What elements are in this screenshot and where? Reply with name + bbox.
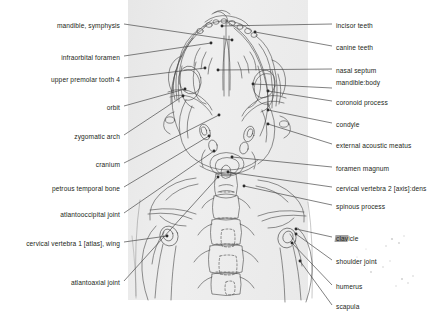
leader-line-petrous-temporal-bone (124, 136, 209, 187)
label-cervical-vertebra-1-atlas-line-0: cervical vertebra 1 [atlas], wing (4, 240, 120, 248)
label-mandible-body: mandible:body (336, 79, 380, 87)
label-zygomatic-arch-line-0: zygomatic arch (4, 133, 120, 141)
leader-line-upper-premolar-tooth-4 (124, 68, 205, 78)
label-petrous-temporal-bone-line-0: petrous temporal bone (4, 185, 120, 193)
leader-dot-shoulder-joint (295, 233, 298, 236)
leader-dot-spinous-process (243, 185, 246, 188)
leader-dot-mandible-body (252, 83, 255, 86)
label-infraorbital-foramen-line-0: infraorbital foramen (4, 54, 120, 62)
label-petrous-temporal-bone: petrous temporal bone (4, 185, 120, 193)
label-canine-teeth-line-0: canine teeth (336, 44, 373, 51)
figure-canvas: mandible, symphysisinfraorbital foramenu… (0, 0, 446, 324)
leader-line-clavicle (296, 229, 332, 237)
leader-dot-infraorbital-foramen (210, 42, 213, 45)
label-spinous-process: spinous process (336, 203, 385, 211)
label-shoulder-joint: shoulder joint (336, 258, 377, 266)
leader-line-condyle (268, 110, 332, 123)
leader-line-atlantoaxial-joint (124, 177, 218, 281)
label-zygomatic-arch: zygomatic arch (4, 133, 120, 141)
leader-line-foramen-magnum (232, 157, 332, 167)
label-upper-premolar-tooth-4-line-0: upper premolar tooth 4 (4, 76, 120, 84)
leader-line-cervical-vertebra-1-atlas (124, 236, 167, 242)
leader-line-scapula (300, 261, 332, 305)
leader-dot-incisor-teeth (221, 25, 224, 28)
leader-dot-condyle (267, 109, 270, 112)
label-cervical-vertebra-2-axis-line-1: dens (412, 185, 427, 192)
leader-dot-cervical-vertebra-2-axis (227, 171, 230, 174)
leader-line-external-acoustic-meatus (268, 124, 332, 144)
label-cervical-vertebra-1-atlas: cervical vertebra 1 [atlas], wing (4, 240, 120, 248)
label-mandible-symphysis: mandible, symphysis (4, 22, 120, 30)
leader-dot-clavicle (295, 228, 298, 231)
leader-line-orbit (124, 89, 185, 106)
leader-line-shoulder-joint (296, 234, 332, 260)
leader-dot-petrous-temporal-bone (208, 135, 211, 138)
label-foramen-magnum-line-0: foramen magnum (336, 165, 389, 172)
label-cervical-vertebra-2-axis-line-0: cervical vertebra 2 [axis]: (336, 185, 412, 192)
label-canine-teeth: canine teeth (336, 44, 373, 52)
leader-dot-foramen-magnum (231, 156, 234, 159)
label-clavicle-line-0: clavicle (336, 235, 358, 242)
label-mandible-body-line-1: body (366, 79, 381, 86)
label-atlantooccipital-joint: atlantooccipital joint (4, 211, 120, 219)
label-orbit-line-0: orbit (4, 104, 120, 112)
label-atlantooccipital-joint-line-0: atlantooccipital joint (4, 211, 120, 219)
label-foramen-magnum: foramen magnum (336, 165, 389, 173)
leader-dot-coronoid-process (267, 90, 270, 93)
label-infraorbital-foramen: infraorbital foramen (4, 54, 120, 62)
leader-line-humerus (292, 243, 332, 285)
leader-dot-cranium (218, 114, 221, 117)
label-condyle: condyle (336, 121, 359, 129)
label-clavicle: clavicle (336, 235, 358, 243)
label-humerus-line-0: humerus (336, 283, 362, 290)
leader-line-coronoid-process (268, 91, 332, 101)
label-coronoid-process: coronoid process (336, 99, 388, 107)
leader-dot-upper-premolar-tooth-4 (204, 67, 207, 70)
label-spinous-process-line-0: spinous process (336, 203, 385, 210)
label-scapula: scapula (336, 303, 359, 311)
leader-line-nasal-septum (218, 69, 332, 70)
label-mandible-body-line-0: mandible: (336, 79, 366, 86)
leader-dot-humerus (291, 242, 294, 245)
label-nasal-septum-line-0: nasal septum (336, 67, 376, 74)
leader-line-mandible-body (253, 84, 332, 88)
label-cervical-vertebra-2-axis: cervical vertebra 2 [axis]:dens (336, 185, 426, 193)
label-coronoid-process-line-0: coronoid process (336, 99, 388, 106)
label-humerus: humerus (336, 283, 362, 291)
label-cranium: cranium (4, 161, 120, 169)
label-cranium-line-0: cranium (4, 161, 120, 169)
leader-line-infraorbital-foramen (124, 43, 211, 56)
leader-dot-external-acoustic-meatus (267, 123, 270, 126)
leader-dot-nasal-septum (217, 69, 220, 72)
label-scapula-line-0: scapula (336, 303, 359, 310)
leader-dot-zygomatic-arch (182, 95, 185, 98)
label-external-acoustic-meatus: external acoustic meatus (336, 142, 411, 150)
label-upper-premolar-tooth-4: upper premolar tooth 4 (4, 76, 120, 84)
label-atlantoaxial-joint: atlantoaxial joint (4, 279, 120, 287)
leader-dot-orbit (184, 88, 187, 91)
label-shoulder-joint-line-0: shoulder joint (336, 258, 377, 265)
leader-dot-atlantooccipital-joint (213, 150, 216, 153)
label-orbit: orbit (4, 104, 120, 112)
leader-dot-scapula (299, 260, 302, 263)
label-nasal-septum: nasal septum (336, 67, 376, 75)
leader-line-cranium (124, 115, 219, 163)
label-condyle-line-0: condyle (336, 121, 359, 128)
label-mandible-symphysis-line-0: mandible, symphysis (4, 22, 120, 30)
leader-line-canine-teeth (255, 32, 332, 46)
leader-line-mandible-symphysis (124, 24, 232, 40)
leader-line-incisor-teeth (222, 24, 332, 26)
label-atlantoaxial-joint-line-0: atlantoaxial joint (4, 279, 120, 287)
label-incisor-teeth: incisor teeth (336, 22, 373, 30)
label-external-acoustic-meatus-line-0: external acoustic meatus (336, 142, 411, 149)
label-incisor-teeth-line-0: incisor teeth (336, 22, 373, 29)
leader-line-zygomatic-arch (124, 96, 183, 135)
leader-dot-atlantoaxial-joint (217, 176, 220, 179)
leader-dot-canine-teeth (254, 31, 257, 34)
leader-dot-mandible-symphysis (231, 39, 234, 42)
leader-line-spinous-process (244, 186, 332, 205)
